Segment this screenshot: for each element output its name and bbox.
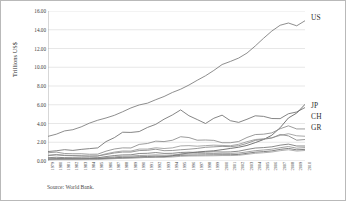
x-axis-tick-label: 2002 (240, 162, 245, 170)
lines-svg (48, 11, 305, 161)
x-axis-tick-label: 2000 (224, 162, 229, 170)
x-axis-tick-label: 1991 (149, 162, 154, 170)
source-note: Source: World Bank. (47, 184, 94, 190)
series-line-jp (48, 108, 305, 152)
x-axis-tick-label: 2010 (307, 162, 312, 170)
x-axis-tick-label: 2001 (232, 162, 237, 170)
x-axis-tick-label: 1982 (74, 162, 79, 170)
series-line-us (48, 21, 305, 137)
x-axis-tick-label: 1989 (133, 162, 138, 170)
x-axis-tick-label: 1979 (50, 162, 55, 170)
series-lines (48, 21, 305, 160)
x-axis-tick-label: 1995 (182, 162, 187, 170)
x-axis-tick-label: 2003 (249, 162, 254, 170)
x-axis-tick-label: 2006 (273, 162, 278, 170)
y-axis-title: Trillions US$ (11, 20, 18, 100)
y-axis-tick-label: 10.00 (22, 64, 46, 70)
x-axis-tick-label: 2004 (257, 162, 262, 170)
y-axis-tick-label: 14.00 (22, 27, 46, 33)
y-axis-tick-label: 12.00 (22, 46, 46, 52)
x-axis-tick-label: 1986 (108, 162, 113, 170)
x-axis-tick-label: 1984 (91, 162, 96, 170)
x-axis-tick-label: 1994 (174, 162, 179, 170)
y-axis-tick-label: 2.00 (22, 139, 46, 145)
x-axis-tick-label: 1998 (207, 162, 212, 170)
x-axis-tick-label: 2008 (290, 162, 295, 170)
x-axis-tick-label: 1992 (157, 162, 162, 170)
x-axis-tick-label: 1993 (166, 162, 171, 170)
x-axis-tick-labels: 1979198019811982198319841985198619871988… (48, 162, 305, 184)
x-axis-tick-label: 1987 (116, 162, 121, 170)
x-axis-tick-label: 1988 (124, 162, 129, 170)
x-axis-tick-label: 1996 (191, 162, 196, 170)
y-axis-tick-label: 4.00 (22, 121, 46, 127)
x-axis-tick-label: 1997 (199, 162, 204, 170)
y-axis-tick-label: 8.00 (22, 83, 46, 89)
x-axis-tick-label: 2009 (298, 162, 303, 170)
x-axis-tick-label: 2005 (265, 162, 270, 170)
x-axis-tick-label: 1983 (83, 162, 88, 170)
plot-area (48, 11, 305, 161)
x-axis-tick-label: 1985 (99, 162, 104, 170)
x-axis-tick-label: 1999 (215, 162, 220, 170)
x-axis-tick-label: 2007 (282, 162, 287, 170)
y-axis-tick-labels: 0.002.004.006.008.0010.0012.0014.0016.00 (22, 0, 46, 201)
y-axis-tick-label: 6.00 (22, 102, 46, 108)
y-axis-tick-label: 0.00 (22, 158, 46, 164)
chart-page: Trillions US$ 0.002.004.006.008.0010.001… (0, 0, 346, 201)
x-axis-tick-label: 1980 (58, 162, 63, 170)
x-axis-tick-label: 1990 (141, 162, 146, 170)
x-axis-tick-label: 1981 (66, 162, 71, 170)
y-axis-tick-label: 16.00 (22, 8, 46, 14)
